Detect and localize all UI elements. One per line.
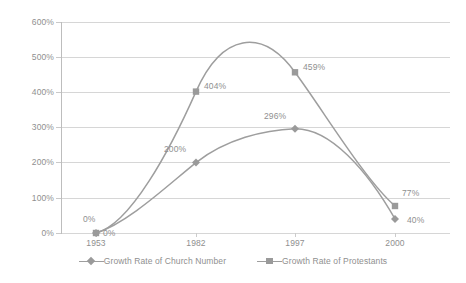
y-axis-label-500: 500% [32,52,54,62]
data-label-protestants-1982: 404% [204,81,226,91]
x-axis-label-1982: 1982 [186,238,205,248]
x-axis-label-1953: 1953 [86,238,105,248]
y-axis-label-0: 0% [42,228,55,238]
gridline-300: 300% [61,127,450,128]
y-axis-label-100: 100% [32,193,54,203]
legend-item-church-number[interactable]: Growth Rate of Church Number [79,256,226,266]
x-axis-label-2000: 2000 [385,238,404,248]
gridline-400: 400% [61,92,450,93]
x-axis-label-1997: 1997 [285,238,304,248]
y-axis-label-600: 600% [32,17,54,27]
y-axis-label-200: 200% [32,157,54,167]
x-tick-2000 [395,233,396,237]
y-axis-label-300: 300% [32,122,54,132]
gridline-500: 500% [61,57,450,58]
gridline-0: 0% [61,233,450,234]
x-tick-1997 [295,233,296,237]
legend-label-church-number: Growth Rate of Church Number [104,256,226,266]
x-tick-1953 [96,233,97,237]
chart-legend: Growth Rate of Church Number Growth Rate… [0,256,466,266]
plot-area: 600% 500% 400% 300% 200% 100% 0% [61,22,450,233]
y-axis-line [61,22,62,234]
data-label-church-number-1997: 296% [264,111,286,121]
data-label-church-number-2000: 40% [407,215,424,225]
gridline-100: 100% [61,198,450,199]
legend-label-protestants: Growth Rate of Protestants [282,256,387,266]
y-axis-label-400: 400% [32,87,54,97]
data-label-church-number-1953: 0% [103,228,116,238]
gridline-600: 600% [61,22,450,23]
x-tick-1982 [196,233,197,237]
legend-item-protestants[interactable]: Growth Rate of Protestants [257,256,387,266]
gridline-200: 200% [61,162,450,163]
data-label-protestants-2000: 77% [402,188,419,198]
chart-container: 600% 500% 400% 300% 200% 100% 0% [0,0,466,283]
data-label-church-number-1982: 200% [164,144,186,154]
data-label-protestants-1953: 0% [83,214,96,224]
diamond-marker-icon [79,256,104,266]
square-marker-icon [257,256,282,266]
data-label-protestants-1997: 459% [303,62,325,72]
